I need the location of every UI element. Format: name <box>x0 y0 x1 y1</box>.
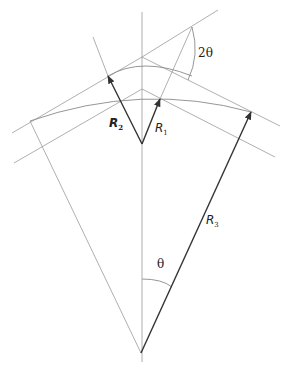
two-theta-angle-arc <box>188 27 195 80</box>
two-theta-label: 2θ <box>198 47 213 59</box>
upper-arc <box>108 66 192 76</box>
r2-label: R2 <box>109 117 123 131</box>
geometry-diagram: 2θ θ R2 R1 R3 <box>0 0 286 373</box>
r2-vector <box>108 76 142 144</box>
r2-label-sub: 2 <box>118 123 123 132</box>
theta-angle-arc <box>142 279 172 287</box>
left-radial-line <box>30 121 141 353</box>
r1-label-sub: 1 <box>163 129 167 137</box>
diagram-drawing <box>0 0 286 373</box>
r3-vector <box>141 112 251 353</box>
r2-extension-line <box>93 37 108 76</box>
theta-label: θ <box>157 258 164 270</box>
r3-label-sub: 3 <box>214 221 218 229</box>
r3-label: R3 <box>206 214 219 229</box>
r1-extension-line <box>160 27 192 99</box>
r2-label-main: R <box>109 116 118 130</box>
r1-label: R1 <box>155 122 168 137</box>
lower-arc <box>30 99 251 121</box>
